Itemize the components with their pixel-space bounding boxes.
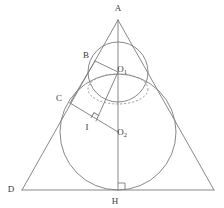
label-O2: O2 [117,127,127,138]
label-A: A [115,3,122,13]
label-B: B [83,50,89,60]
label-O1: O1 [117,64,127,75]
chord-CO2 [70,103,118,132]
label-H: H [112,196,119,206]
label-C: C [56,93,62,103]
label-I: I [86,122,89,132]
geometry-figure: ABO1CIO2DH [0,0,224,208]
radius-O1B [95,61,118,72]
segment-O1I [96,72,118,121]
geometry-canvas: ABO1CIO2DH [0,0,224,208]
right-angle-at-H [118,183,125,190]
label-D: D [8,184,15,194]
right-angle-at-H-mark [118,183,125,190]
